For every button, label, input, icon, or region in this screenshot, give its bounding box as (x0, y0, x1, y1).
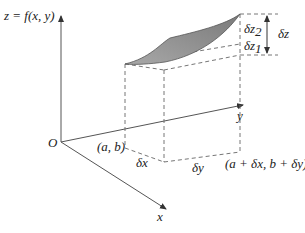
y-axis-label: y (235, 108, 243, 123)
delta-y-label: δy (192, 160, 204, 175)
surface-patch (125, 14, 240, 64)
partial-derivative-diagram: z = f(x, y) O y x (a, b) (a + δx, b + δy… (0, 0, 305, 233)
point-a-dx-b-dy-label: (a + δx, b + δy) (225, 156, 305, 171)
delta-z2-label: δz2 (244, 21, 262, 39)
origin-label: O (48, 135, 58, 150)
delta-z1-label: δz1 (244, 38, 262, 56)
x-axis-label: x (156, 209, 163, 224)
delta-x-label: δx (136, 155, 148, 170)
delta-z-label: δz (278, 26, 289, 41)
top-edge-dx (125, 64, 164, 70)
point-a-b-label: (a, b) (97, 139, 125, 154)
z-axis-label: z = f(x, y) (3, 8, 55, 23)
y-axis (61, 105, 243, 142)
